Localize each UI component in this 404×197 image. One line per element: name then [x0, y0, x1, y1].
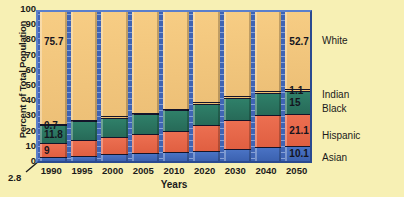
segment-asian-1995 [71, 156, 98, 161]
segment-shadow [249, 99, 251, 120]
segment-shadow [279, 116, 281, 147]
segment-highlight [285, 92, 287, 114]
segment-black-2005 [132, 114, 159, 134]
segment-hispanic-2020 [193, 125, 220, 151]
column-2010[interactable] [163, 12, 190, 161]
segment-shadow [157, 135, 159, 154]
value-label-black-2050: 15 [289, 97, 300, 108]
segment-highlight [224, 121, 226, 149]
segment-black-1995 [71, 121, 98, 140]
segment-white-1990 [40, 10, 67, 124]
segment-asian-2005 [132, 153, 159, 161]
x-tick-2005: 2005 [128, 165, 159, 176]
value-label-indian-2050: 1.1 [289, 85, 303, 96]
segment-shadow [310, 147, 312, 161]
segment-highlight [40, 144, 42, 157]
y-tick-10: 10 [25, 142, 36, 150]
segment-highlight [71, 141, 73, 156]
x-axis-tick-labels: 199019952000200520102020203020402050 [36, 165, 312, 179]
segment-shadow [65, 126, 67, 143]
segment-shadow [279, 10, 281, 91]
column-2030[interactable] [224, 12, 251, 161]
segment-highlight [255, 94, 257, 115]
x-tick-2040: 2040 [251, 165, 282, 176]
segment-highlight [285, 90, 287, 91]
segment-white-2010 [163, 10, 190, 109]
segment-asian-1990 [40, 157, 67, 161]
segment-highlight [40, 126, 42, 143]
segment-white-2030 [224, 10, 251, 96]
segment-indian-2040 [255, 91, 282, 93]
segment-highlight [71, 10, 73, 120]
segment-highlight [224, 97, 226, 98]
column-2040[interactable] [255, 12, 282, 161]
segment-shadow [187, 111, 189, 130]
x-tick-2050: 2050 [281, 165, 312, 176]
segment-highlight [285, 147, 287, 161]
segment-highlight [193, 152, 195, 161]
segment-hispanic-2040 [255, 115, 282, 147]
value-label-asian-2050: 10.1 [289, 148, 308, 159]
segment-shadow [249, 150, 251, 161]
segment-highlight [224, 99, 226, 120]
y-tick-90: 90 [25, 20, 36, 28]
y-tick-80: 80 [25, 35, 36, 43]
x-tick-1990: 1990 [36, 165, 67, 176]
segment-shadow [126, 155, 128, 161]
segment-white-2040 [255, 10, 282, 91]
y-tick-50: 50 [25, 81, 36, 89]
segment-shadow [249, 121, 251, 149]
segment-hispanic-2030 [224, 120, 251, 149]
y-tick-70: 70 [25, 51, 36, 59]
y-tick-30: 30 [25, 111, 36, 119]
segment-white-2005 [132, 10, 159, 113]
x-tick-2010: 2010 [159, 165, 190, 176]
segment-indian-1995 [71, 120, 98, 121]
segment-asian-2020 [193, 151, 220, 161]
segment-highlight [101, 155, 103, 161]
x-tick-1995: 1995 [67, 165, 98, 176]
segment-shadow [157, 154, 159, 161]
segment-shadow [126, 10, 128, 116]
segment-highlight [193, 10, 195, 102]
segment-highlight [224, 10, 226, 96]
column-1995[interactable] [71, 12, 98, 161]
value-label-black-1990: 11.8 [44, 129, 63, 140]
segment-white-2050 [285, 10, 312, 89]
segment-shadow [310, 90, 312, 91]
column-2005[interactable] [132, 12, 159, 161]
segment-highlight [255, 10, 257, 91]
x-axis-title: Years [36, 179, 312, 190]
column-2000[interactable] [101, 12, 128, 161]
x-tick-2030: 2030 [220, 165, 251, 176]
segment-shadow [95, 122, 97, 140]
legend-item-asian: Asian [322, 152, 347, 163]
segment-indian-2000 [101, 116, 128, 117]
value-label-white-1990: 75.7 [44, 36, 63, 47]
segment-shadow [65, 144, 67, 157]
legend-item-white: White [322, 35, 348, 46]
plot-area: 75.70.711.8952.71.11521.110.1 [36, 10, 312, 163]
y-tick-20: 20 [25, 127, 36, 135]
y-tick-40: 40 [25, 96, 36, 104]
segment-shadow [218, 10, 220, 102]
segment-highlight [224, 150, 226, 161]
segment-black-2000 [101, 118, 128, 137]
y-axis-tick-labels: 1009080706050403020100 [14, 9, 36, 161]
column-2020[interactable] [193, 12, 220, 161]
segment-shadow [157, 115, 159, 134]
segment-highlight [132, 115, 134, 134]
segment-shadow [279, 92, 281, 93]
segment-shadow [279, 148, 281, 161]
legend-item-black: Black [322, 103, 346, 114]
segment-indian-2010 [163, 109, 190, 110]
segment-asian-2010 [163, 152, 190, 161]
legend: White Indian Black Hispanic Asian [322, 0, 404, 197]
segment-shadow [218, 126, 220, 151]
segment-shadow [310, 115, 312, 146]
value-label-hispanic-1990: 9 [44, 145, 50, 156]
segment-shadow [65, 10, 67, 124]
segment-shadow [95, 141, 97, 156]
segment-asian-2040 [255, 147, 282, 161]
value-label-white-2050: 52.7 [289, 36, 308, 47]
